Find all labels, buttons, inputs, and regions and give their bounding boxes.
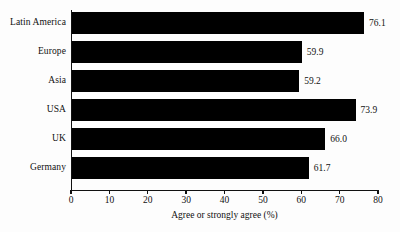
bar-value-germany: 61.7	[309, 163, 331, 173]
bar-value-latin-america: 76.1	[364, 18, 386, 28]
category-label-uk: UK	[0, 133, 66, 143]
category-label-europe: Europe	[0, 46, 66, 56]
bar-chart: Latin America Europe Asia USA UK Germany…	[0, 0, 400, 232]
bar-europe	[72, 41, 302, 63]
bars-layer: 76.1 59.9 59.2 73.9 66.0 61.7	[72, 10, 379, 190]
x-tick-label-80: 80	[373, 194, 383, 206]
x-axis-title: Agree or strongly agree (%)	[71, 209, 378, 221]
bar-latin-america	[72, 12, 364, 34]
x-tick-label-60: 60	[297, 194, 307, 206]
bar-value-uk: 66.0	[325, 134, 347, 144]
bar-usa	[72, 99, 356, 121]
bar-uk	[72, 128, 325, 150]
x-tick-label-30: 30	[181, 194, 191, 206]
bar-germany	[72, 157, 309, 179]
plot-area: 76.1 59.9 59.2 73.9 66.0 61.7	[71, 10, 379, 191]
category-axis-labels: Latin America Europe Asia USA UK Germany	[0, 12, 66, 190]
x-tick-label-40: 40	[220, 194, 230, 206]
x-axis-tick-labels: 01020304050607080	[71, 194, 378, 208]
bar-asia	[72, 70, 299, 92]
bar-value-usa: 73.9	[356, 105, 378, 115]
bar-value-europe: 59.9	[302, 47, 324, 57]
bar-value-asia: 59.2	[299, 76, 321, 86]
category-label-asia: Asia	[0, 75, 66, 85]
x-tick-label-0: 0	[69, 194, 74, 206]
x-tick-label-70: 70	[335, 194, 345, 206]
category-label-germany: Germany	[0, 162, 66, 172]
category-label-usa: USA	[0, 104, 66, 114]
category-label-latin-america: Latin America	[0, 17, 66, 27]
x-tick-label-50: 50	[258, 194, 268, 206]
x-tick-label-20: 20	[143, 194, 153, 206]
x-tick-label-10: 10	[105, 194, 115, 206]
